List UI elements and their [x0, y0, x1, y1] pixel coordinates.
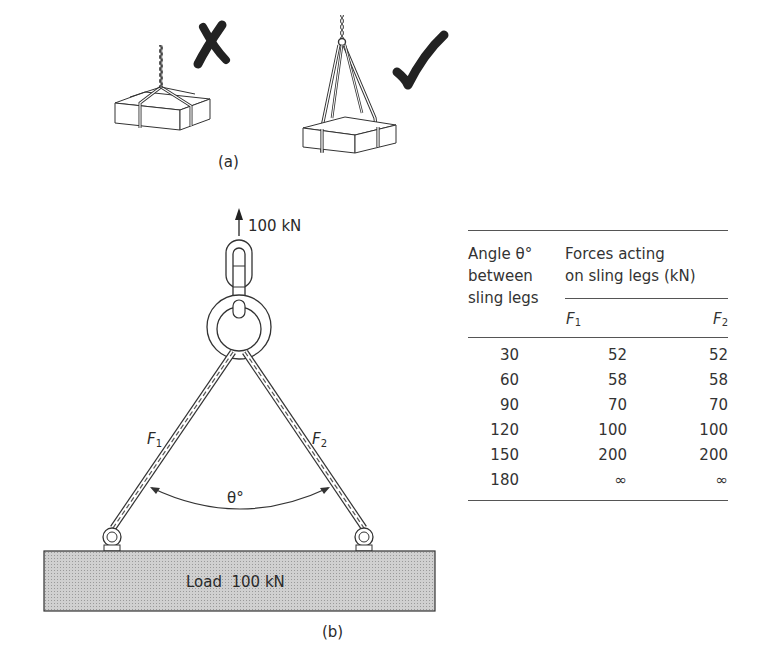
col-f2-header: F2 — [713, 308, 728, 334]
right-sling-illustration — [303, 15, 396, 153]
table-bottom-rule — [468, 500, 728, 501]
eye-bolt-left — [103, 528, 121, 551]
eye-bolt-right — [355, 528, 373, 551]
col-f1-header: F1 — [566, 308, 581, 334]
figure-a-caption: (a) — [218, 153, 239, 171]
wrong-sling-illustration — [115, 45, 210, 130]
header-bottom-rule — [468, 337, 728, 338]
chain-leg-right — [245, 352, 364, 528]
col-angle-header: Angle θ° between sling legs — [468, 243, 539, 309]
figure-b: 100 kN θ° F1 F2 Loa — [0, 195, 460, 648]
lift-force-label: 100 kN — [248, 217, 301, 235]
col-forces-group-header: Forces acting on sling legs (kN) — [565, 243, 696, 287]
table-top-rule — [468, 230, 728, 231]
wrong-mark-icon — [198, 25, 226, 64]
chain-leg-left — [113, 352, 233, 528]
right-mark-icon — [397, 35, 444, 85]
figure-b-caption: (b) — [322, 623, 343, 641]
angle-label: θ° — [227, 489, 244, 507]
load-label: Load 100 kN — [186, 573, 285, 591]
lift-force-arrow — [235, 208, 243, 236]
figure-a: (a) — [0, 0, 460, 180]
leg-left-label: F1 — [147, 430, 162, 449]
group-header-rule — [565, 298, 728, 299]
leg-right-label: F2 — [312, 430, 327, 449]
